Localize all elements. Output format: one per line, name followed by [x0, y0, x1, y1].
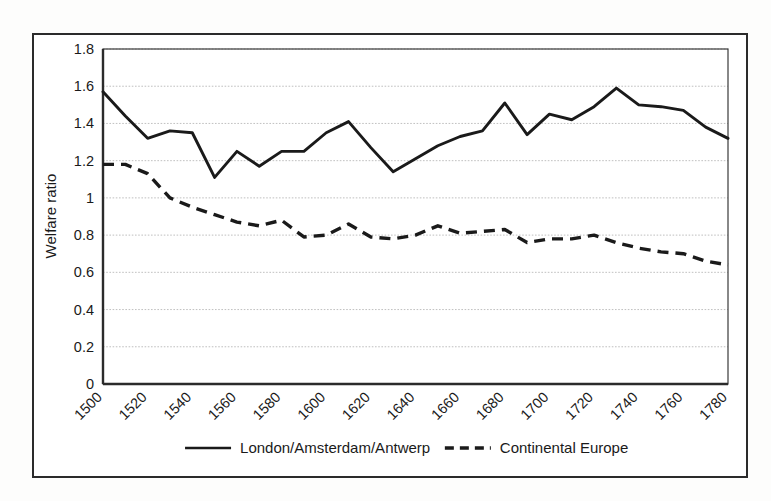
y-tick-label: 0.4: [74, 302, 94, 318]
x-tick-label: 1760: [651, 389, 685, 423]
x-tick-label: 1600: [294, 389, 328, 423]
y-tick-label: 1: [86, 190, 94, 206]
x-tick-label: 1580: [250, 389, 284, 423]
y-tick-label: 0.8: [74, 227, 94, 243]
y-tick-label: 1.8: [74, 41, 94, 57]
x-tick-label: 1740: [607, 389, 641, 423]
x-tick-label: 1560: [205, 389, 239, 423]
y-tick-label: 1.6: [74, 78, 94, 94]
x-tick-label: 1780: [696, 389, 730, 423]
x-tick-label: 1520: [116, 389, 150, 423]
x-tick-label: 1540: [160, 389, 194, 423]
welfare-ratio-line-chart: 00.20.40.60.811.21.41.61.8 1500152015401…: [34, 35, 746, 476]
y-axis-title: Welfare ratio: [42, 174, 59, 259]
figure-container: 00.20.40.60.811.21.41.61.8 1500152015401…: [0, 0, 771, 501]
plot-area-background: [103, 49, 728, 384]
x-tick-label: 1680: [473, 389, 507, 423]
x-tick-label: 1640: [383, 389, 417, 423]
y-tick-label: 1.4: [74, 115, 94, 131]
legend-label-1: London/Amsterdam/Antwerp: [240, 439, 430, 456]
y-tick-label: 0.2: [74, 339, 94, 355]
chart-outer-frame: 00.20.40.60.811.21.41.61.8 1500152015401…: [32, 33, 748, 478]
x-tick-label: 1500: [71, 389, 105, 423]
x-tick-label: 1660: [428, 389, 462, 423]
legend-label-2: Continental Europe: [500, 439, 628, 456]
x-axis-tick-labels: 1500152015401560158016001620164016601680…: [71, 389, 730, 423]
x-tick-label: 1620: [339, 389, 373, 423]
y-tick-label: 0.6: [74, 264, 94, 280]
chart-legend: London/Amsterdam/AntwerpContinental Euro…: [185, 439, 628, 456]
x-tick-label: 1720: [562, 389, 596, 423]
y-tick-label: 1.2: [74, 153, 94, 169]
y-axis-tick-labels: 00.20.40.60.811.21.41.61.8: [74, 41, 94, 392]
x-tick-label: 1700: [517, 389, 551, 423]
